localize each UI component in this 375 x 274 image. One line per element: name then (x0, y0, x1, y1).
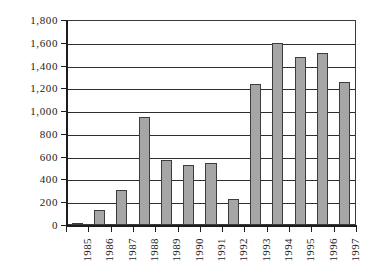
x-axis-tick (334, 227, 335, 232)
y-axis-tick-label: 1,000 (2, 106, 58, 117)
y-axis-tick-label: 400 (2, 174, 58, 185)
bar (72, 223, 83, 225)
x-axis-tick-label: 1995 (305, 238, 316, 262)
x-axis-tick-label: 1989 (171, 238, 182, 262)
bar (228, 199, 239, 225)
bar (295, 57, 306, 225)
y-axis-tick-label: 1,600 (2, 38, 58, 49)
y-axis-tick (61, 157, 66, 158)
x-axis-tick (111, 227, 112, 232)
gridline (67, 135, 355, 136)
bar (317, 53, 328, 225)
y-axis-tick-label: 1,200 (2, 83, 58, 94)
bar (250, 84, 261, 225)
y-axis-tick (61, 43, 66, 44)
x-axis-tick-label: 1987 (127, 238, 138, 262)
bar (272, 43, 283, 225)
x-axis-tick (178, 227, 179, 232)
y-axis-tick-label: 1,400 (2, 61, 58, 72)
y-axis-tick (61, 225, 66, 226)
bar (205, 163, 216, 225)
y-axis-tick (61, 88, 66, 89)
x-axis-tick (155, 227, 156, 232)
x-axis-tick-label: 1991 (216, 238, 227, 262)
bar (183, 165, 194, 225)
x-axis-tick-label: 1988 (149, 238, 160, 262)
x-axis-tick-label: 1990 (194, 238, 205, 262)
x-axis-tick-label: 1986 (104, 238, 115, 262)
gridline (67, 44, 355, 45)
y-axis-tick (61, 179, 66, 180)
gridline (67, 67, 355, 68)
y-axis-tick-label: 1,800 (2, 15, 58, 26)
bar (116, 190, 127, 225)
y-axis-tick-label: 0 (2, 220, 58, 231)
x-axis-tick (311, 227, 312, 232)
x-axis-tick-label: 1997 (350, 238, 361, 262)
x-axis-tick (200, 227, 201, 232)
x-axis-tick (66, 227, 67, 232)
y-axis-line (66, 20, 68, 226)
bar (94, 210, 105, 225)
x-axis-tick-label: 1993 (261, 238, 272, 262)
bar (139, 117, 150, 225)
y-axis-tick-label: 800 (2, 129, 58, 140)
x-axis-tick (88, 227, 89, 232)
y-axis-tick (61, 202, 66, 203)
bar (339, 82, 350, 225)
y-axis-tick (61, 20, 66, 21)
x-axis-tick-label: 1994 (283, 238, 294, 262)
x-axis-tick (267, 227, 268, 232)
x-axis-tick-label: 1992 (238, 238, 249, 262)
x-axis-tick-label: 1996 (328, 238, 339, 262)
gridline (67, 89, 355, 90)
y-axis-tick-label: 600 (2, 152, 58, 163)
x-axis-tick-label: 1985 (82, 238, 93, 262)
y-axis-tick (61, 134, 66, 135)
y-axis-tick-label: 200 (2, 197, 58, 208)
x-axis-tick (222, 227, 223, 232)
x-axis-tick (356, 227, 357, 232)
y-axis-tick (61, 66, 66, 67)
y-axis-labels: 1,8001,6001,4001,2001,0008006004002000 (0, 0, 58, 274)
gridline (67, 112, 355, 113)
bar (161, 160, 172, 225)
y-axis-tick (61, 111, 66, 112)
bar-chart: 1,8001,6001,4001,2001,0008006004002000 1… (0, 0, 375, 274)
x-axis-tick (133, 227, 134, 232)
x-axis-tick (289, 227, 290, 232)
x-axis-tick (244, 227, 245, 232)
gridline (67, 158, 355, 159)
